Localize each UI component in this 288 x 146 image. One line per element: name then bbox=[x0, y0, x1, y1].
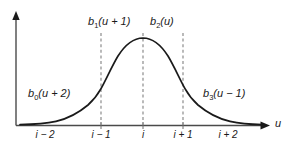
curve-label-b3-arg: (u − 1) bbox=[213, 87, 245, 99]
curve-label-b0-arg: (u + 2) bbox=[38, 87, 70, 99]
x-axis-label: u bbox=[275, 118, 281, 129]
guide-lines bbox=[101, 33, 183, 125]
x-axis-arrowhead bbox=[261, 122, 271, 130]
tick-label-i-minus-2: i − 2 bbox=[35, 130, 54, 140]
curve-label-b2: b2(u) bbox=[150, 16, 174, 30]
curve-label-b2-arg: (u) bbox=[160, 15, 173, 27]
tick-label-i: i bbox=[142, 130, 144, 140]
curve-label-b0: b0(u + 2) bbox=[28, 88, 70, 102]
curve-label-b1: b1(u + 1) bbox=[88, 16, 130, 30]
y-axis bbox=[12, 11, 19, 126]
figure-canvas bbox=[0, 0, 288, 146]
bspline-basis-figure: b0(u + 2) b1(u + 1) b2(u) b3(u − 1) i − … bbox=[0, 0, 288, 146]
tick-label-i-plus-2: i + 2 bbox=[218, 130, 237, 140]
tick-label-i-plus-1: i + 1 bbox=[173, 130, 192, 140]
bspline-curve bbox=[20, 38, 262, 125]
y-axis-arrowhead bbox=[12, 11, 19, 20]
curve-label-b1-arg: (u + 1) bbox=[98, 15, 130, 27]
tick-label-i-minus-1: i − 1 bbox=[91, 130, 110, 140]
curve-label-b3: b3(u − 1) bbox=[203, 88, 245, 102]
